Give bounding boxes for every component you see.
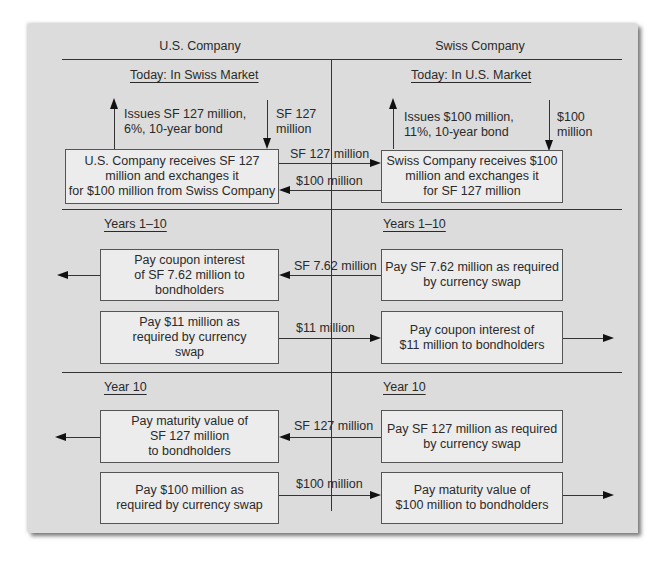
pay-100-swap-box: Pay $100 million as required by currency…	[100, 472, 279, 524]
arrow-up-icon	[389, 98, 397, 109]
right-issue-label: Issues $100 million, 11%, 10-year bond	[404, 110, 514, 140]
issue-arrow-left	[114, 104, 115, 149]
section-divider	[62, 209, 622, 210]
flow-line	[290, 437, 381, 438]
flow-line	[563, 495, 607, 496]
years-right-heading: Years 1–10	[383, 217, 446, 232]
flow-line	[279, 338, 371, 339]
flow-sf762-label: SF 7.62 million	[294, 259, 377, 274]
arrow-left-icon	[57, 271, 68, 279]
arrow-left-icon	[279, 186, 290, 194]
coupon-11-box: Pay coupon interest of $11 million to bo…	[381, 311, 563, 364]
left-issue-label: Issues SF 127 million, 6%, 10-year bond	[124, 107, 246, 137]
flow-line	[279, 163, 371, 164]
pay-sf127-swap-box: Pay SF 127 million as required by curren…	[381, 410, 563, 463]
maturity-sf-box: Pay maturity value of SF 127 million to …	[100, 410, 279, 463]
us-company-header: U.S. Company	[100, 39, 300, 54]
flow-100-label: $100 million	[296, 174, 363, 189]
arrow-up-icon	[110, 98, 118, 109]
inflow-arrow-right	[549, 100, 550, 140]
arrow-right-icon	[370, 159, 381, 167]
flow-line	[66, 437, 100, 438]
flow-100-final-label: $100 million	[296, 477, 363, 492]
issue-arrow-right	[393, 104, 394, 149]
flow-line	[563, 338, 607, 339]
today-left-heading: Today: In Swiss Market	[130, 68, 259, 83]
header-divider	[62, 59, 622, 60]
swiss-receives-box: Swiss Company receives $100 million and …	[381, 150, 563, 203]
flow-11-label: $11 million	[296, 321, 355, 336]
flow-line	[290, 190, 381, 191]
left-inflow-label: SF 127 million	[276, 107, 316, 137]
section-divider	[62, 372, 622, 373]
swiss-company-header: Swiss Company	[380, 39, 580, 54]
arrow-left-icon	[55, 433, 66, 441]
arrow-right-icon	[370, 334, 381, 342]
pay-sf-swap-box: Pay SF 7.62 million as required by curre…	[381, 249, 563, 301]
arrow-right-icon	[603, 334, 614, 342]
coupon-sf-box: Pay coupon interest of SF 7.62 million t…	[100, 249, 279, 301]
today-right-heading: Today: In U.S. Market	[411, 68, 531, 83]
flow-sf127-final-label: SF 127 million	[294, 419, 373, 434]
flow-sf127-label: SF 127 million	[290, 147, 369, 162]
arrow-left-icon	[279, 271, 290, 279]
arrow-right-icon	[370, 491, 381, 499]
arrow-down-icon	[263, 138, 271, 149]
right-inflow-label: $100 million	[557, 110, 592, 140]
flow-line	[279, 495, 371, 496]
flow-line	[68, 275, 100, 276]
arrow-right-icon	[603, 491, 614, 499]
arrow-left-icon	[279, 433, 290, 441]
inflow-arrow-left	[267, 100, 268, 138]
maturity-100-box: Pay maturity value of $100 million to bo…	[381, 472, 563, 524]
year10-right-heading: Year 10	[383, 380, 426, 395]
years-left-heading: Years 1–10	[104, 217, 167, 232]
pay-11-swap-box: Pay $11 million as required by currency …	[100, 311, 279, 364]
year10-left-heading: Year 10	[104, 380, 147, 395]
flow-line	[290, 275, 381, 276]
us-receives-box: U.S. Company receives SF 127 million and…	[65, 149, 279, 204]
center-divider	[331, 59, 332, 511]
